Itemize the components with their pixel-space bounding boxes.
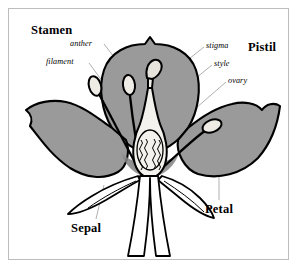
stem bbox=[128, 176, 170, 256]
label-ovary: ovary bbox=[228, 77, 247, 85]
sepal-left bbox=[68, 176, 140, 214]
label-pistil: Pistil bbox=[248, 41, 276, 54]
label-style: style bbox=[214, 60, 230, 68]
label-sepal: Sepal bbox=[71, 222, 101, 235]
diagram-page: Stamen Pistil Petal Sepal anther filamen… bbox=[0, 0, 299, 271]
label-filament: filament bbox=[46, 58, 74, 66]
stem-shape bbox=[128, 176, 170, 256]
label-anther: anther bbox=[70, 40, 92, 48]
label-stamen: Stamen bbox=[31, 24, 72, 37]
label-stigma: stigma bbox=[206, 42, 228, 50]
label-petal: Petal bbox=[205, 203, 233, 216]
